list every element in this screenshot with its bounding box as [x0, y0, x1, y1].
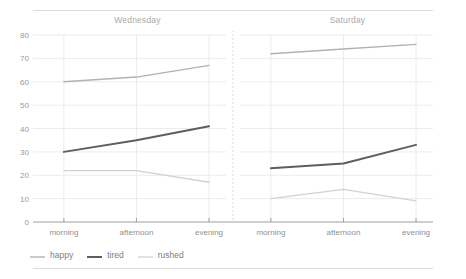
top-divider-rule	[33, 10, 433, 11]
y-tick-label: 70	[5, 54, 29, 63]
x-tick-label: evening	[181, 228, 237, 237]
series-lines	[64, 44, 416, 201]
facet-title-saturday: Saturday	[250, 15, 445, 25]
y-tick-label: 20	[5, 171, 29, 180]
x-tick-label: morning	[36, 228, 92, 237]
y-axis-tick-labels: 01020304050607080	[0, 31, 29, 223]
y-tick-label: 50	[5, 101, 29, 110]
legend-item[interactable]: happy	[30, 246, 73, 264]
x-axis-tick-labels: morningafternooneveningmorningafternoone…	[33, 228, 433, 240]
y-tick-label: 0	[5, 218, 29, 227]
plot-area	[33, 31, 433, 223]
top-cutoff-strip	[0, 0, 466, 10]
y-tick-label: 80	[5, 31, 29, 40]
y-tick-label: 10	[5, 194, 29, 203]
x-tick-label: morning	[243, 228, 299, 237]
legend-label: rushed	[158, 250, 184, 260]
legend-item[interactable]: rushed	[138, 246, 184, 264]
y-tick-label: 60	[5, 77, 29, 86]
x-tick-label: afternoon	[315, 228, 371, 237]
bottom-divider-rule	[33, 268, 433, 269]
legend-label: happy	[50, 250, 73, 260]
legend-label: tired	[107, 250, 124, 260]
y-tick-label: 30	[5, 147, 29, 156]
legend-line-icon	[87, 246, 102, 264]
chart-legend: happytiredrushed	[30, 246, 184, 264]
y-tick-label: 40	[5, 124, 29, 133]
chart-page: Wednesday Saturday 01020304050607080 mor…	[0, 0, 466, 279]
x-tick-label: afternoon	[108, 228, 164, 237]
legend-line-icon	[30, 246, 45, 264]
facet-title-wednesday: Wednesday	[40, 15, 235, 25]
x-tick-label: evening	[388, 228, 444, 237]
line-chart-svg	[33, 31, 433, 223]
legend-line-icon	[138, 246, 153, 264]
legend-item[interactable]: tired	[87, 246, 124, 264]
